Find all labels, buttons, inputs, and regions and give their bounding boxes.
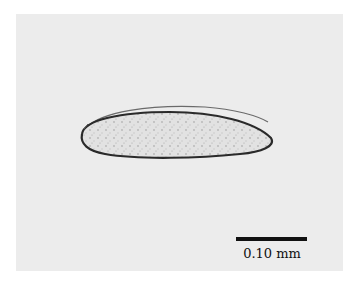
scale-bar-label: 0.10 mm [230,246,314,261]
scale-bar [236,237,307,241]
